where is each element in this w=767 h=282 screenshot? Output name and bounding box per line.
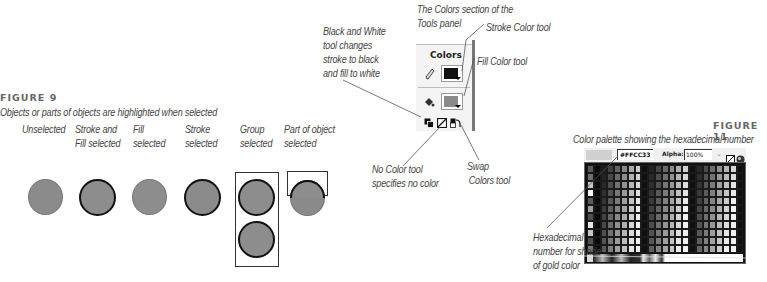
color-swatch[interactable]: [614, 181, 621, 189]
color-swatch[interactable]: [655, 229, 662, 237]
color-swatch[interactable]: [662, 181, 669, 189]
color-swatch[interactable]: [669, 213, 676, 221]
color-swatch[interactable]: [628, 213, 635, 221]
color-swatch[interactable]: [696, 165, 703, 173]
color-swatch[interactable]: [716, 189, 723, 197]
color-swatch[interactable]: [635, 173, 642, 181]
color-swatch[interactable]: [614, 213, 621, 221]
color-swatch[interactable]: [669, 229, 676, 237]
color-swatch[interactable]: [614, 205, 621, 213]
color-swatch[interactable]: [621, 181, 628, 189]
color-swatch[interactable]: [669, 181, 676, 189]
hex-input[interactable]: #FFCC33: [617, 149, 653, 160]
color-swatch[interactable]: [614, 229, 621, 237]
color-swatch[interactable]: [655, 181, 662, 189]
color-swatch[interactable]: [716, 197, 723, 205]
color-swatch[interactable]: [662, 245, 669, 253]
color-swatch[interactable]: [641, 245, 648, 253]
color-swatch[interactable]: [607, 229, 614, 237]
color-swatch[interactable]: [689, 173, 696, 181]
color-swatch[interactable]: [621, 229, 628, 237]
color-swatch[interactable]: [587, 173, 594, 181]
color-swatch[interactable]: [621, 197, 628, 205]
color-swatch[interactable]: [689, 213, 696, 221]
color-swatch[interactable]: [675, 229, 682, 237]
color-swatch[interactable]: [730, 189, 737, 197]
color-swatch[interactable]: [621, 237, 628, 245]
color-swatch[interactable]: [703, 165, 710, 173]
color-swatch[interactable]: [730, 213, 737, 221]
color-swatch[interactable]: [689, 245, 696, 253]
color-swatch[interactable]: [594, 197, 601, 205]
color-swatch[interactable]: [730, 173, 737, 181]
black-white-icon[interactable]: [424, 114, 434, 132]
color-swatch[interactable]: [641, 205, 648, 213]
color-swatch[interactable]: [648, 181, 655, 189]
color-swatch[interactable]: [675, 173, 682, 181]
color-swatch[interactable]: [675, 221, 682, 229]
color-swatch[interactable]: [628, 205, 635, 213]
alpha-input[interactable]: 100%: [684, 149, 712, 160]
color-swatch[interactable]: [614, 165, 621, 173]
color-swatch[interactable]: [594, 165, 601, 173]
color-swatch[interactable]: [696, 173, 703, 181]
color-swatch[interactable]: [682, 173, 689, 181]
color-swatch[interactable]: [614, 173, 621, 181]
color-swatch[interactable]: [601, 181, 608, 189]
color-swatch[interactable]: [594, 205, 601, 213]
color-swatch[interactable]: [655, 245, 662, 253]
color-swatch[interactable]: [682, 245, 689, 253]
color-swatch[interactable]: [675, 213, 682, 221]
color-swatch[interactable]: [709, 229, 716, 237]
swap-colors-icon[interactable]: [450, 114, 461, 132]
color-swatch[interactable]: [641, 181, 648, 189]
color-swatch[interactable]: [655, 213, 662, 221]
color-swatch[interactable]: [628, 181, 635, 189]
color-swatch[interactable]: [628, 165, 635, 173]
color-swatch[interactable]: [703, 229, 710, 237]
color-swatch[interactable]: [635, 221, 642, 229]
color-swatch[interactable]: [737, 165, 744, 173]
color-swatch[interactable]: [662, 237, 669, 245]
color-swatch[interactable]: [621, 165, 628, 173]
stroke-color-button[interactable]: [441, 65, 463, 82]
color-swatch[interactable]: [587, 221, 594, 229]
color-swatch[interactable]: [696, 245, 703, 253]
color-swatch[interactable]: [716, 229, 723, 237]
color-swatch[interactable]: [703, 181, 710, 189]
color-swatch[interactable]: [635, 197, 642, 205]
color-swatch[interactable]: [587, 189, 594, 197]
color-swatch[interactable]: [662, 205, 669, 213]
color-swatch[interactable]: [675, 189, 682, 197]
color-swatch[interactable]: [601, 165, 608, 173]
color-swatch[interactable]: [703, 189, 710, 197]
color-swatch[interactable]: [730, 165, 737, 173]
color-swatch[interactable]: [607, 205, 614, 213]
color-swatch[interactable]: [621, 221, 628, 229]
color-swatch[interactable]: [594, 213, 601, 221]
color-swatch[interactable]: [594, 173, 601, 181]
color-swatch[interactable]: [682, 197, 689, 205]
color-swatch[interactable]: [641, 189, 648, 197]
color-swatch[interactable]: [675, 205, 682, 213]
color-swatch[interactable]: [607, 189, 614, 197]
color-swatch[interactable]: [723, 205, 730, 213]
color-swatch[interactable]: [682, 181, 689, 189]
color-swatch[interactable]: [587, 197, 594, 205]
color-swatch[interactable]: [662, 221, 669, 229]
color-swatch[interactable]: [730, 229, 737, 237]
color-swatch[interactable]: [635, 213, 642, 221]
color-swatch[interactable]: [737, 245, 744, 253]
color-swatch[interactable]: [587, 205, 594, 213]
color-swatch[interactable]: [703, 221, 710, 229]
color-swatch[interactable]: [601, 205, 608, 213]
color-swatch[interactable]: [601, 237, 608, 245]
color-swatch[interactable]: [682, 229, 689, 237]
color-swatch[interactable]: [641, 237, 648, 245]
color-swatch[interactable]: [587, 165, 594, 173]
color-swatch[interactable]: [709, 221, 716, 229]
color-swatch[interactable]: [730, 245, 737, 253]
color-swatch[interactable]: [587, 213, 594, 221]
color-swatch[interactable]: [669, 205, 676, 213]
color-swatch[interactable]: [628, 221, 635, 229]
